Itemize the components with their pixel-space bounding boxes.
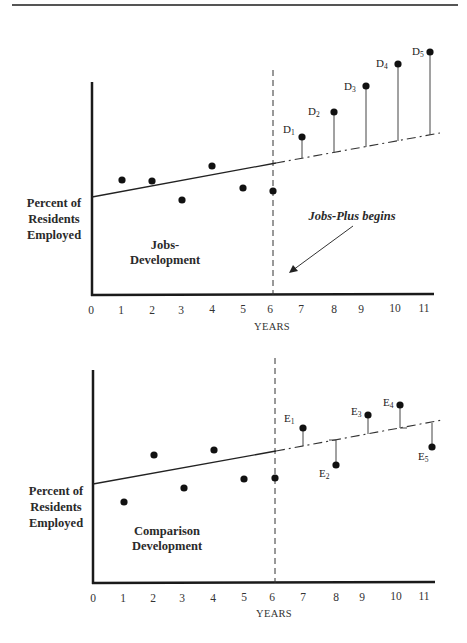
x-axis [92,582,435,583]
svg-text:D3: D3 [344,80,356,94]
svg-text:Jobs-: Jobs- [151,238,179,252]
svg-text:9: 9 [358,303,364,315]
svg-text:E4: E4 [383,396,394,410]
svg-text:E3: E3 [351,405,362,419]
svg-text:3: 3 [179,592,185,604]
y-axis-label: Percent of Residents Employed [27,196,82,242]
projected-trend-line [276,420,442,451]
svg-text:11: 11 [418,302,429,314]
svg-text:D2: D2 [308,105,320,119]
svg-text:8: 8 [333,591,339,603]
svg-text:E1: E1 [284,412,295,426]
svg-text:5: 5 [241,591,247,603]
x-axis [91,294,434,295]
baseline-trend-line [93,451,276,484]
svg-text:D4: D4 [376,57,388,71]
svg-text:7: 7 [300,591,306,603]
svg-text:Residents: Residents [28,212,80,226]
svg-text:Employed: Employed [27,228,81,242]
point-labels: E1 E2 E3 E4 E5 [284,396,429,481]
x-tick-labels: 0 1 2 3 4 5 6 7 8 9 10 11 [90,590,430,604]
x-tick-labels: 0 1 2 3 4 5 6 7 8 9 10 11 [88,302,430,316]
svg-text:E2: E2 [319,467,330,481]
svg-text:10: 10 [389,302,401,314]
svg-text:Percent of: Percent of [29,484,84,498]
svg-text:10: 10 [390,590,402,602]
svg-text:6: 6 [269,591,275,603]
pre-intervention-points [118,162,276,203]
svg-text:11: 11 [418,590,429,602]
svg-text:7: 7 [298,303,304,315]
svg-text:0: 0 [90,592,96,604]
svg-text:5: 5 [240,303,246,315]
svg-text:0: 0 [88,304,94,316]
svg-text:4: 4 [209,303,215,315]
post-intervention-points [299,401,435,468]
svg-text:3: 3 [178,304,184,316]
svg-text:4: 4 [210,592,216,604]
svg-text:YEARS: YEARS [254,321,290,332]
svg-text:2: 2 [149,304,155,316]
panel-label: Jobs- Development [130,238,201,267]
svg-text:6: 6 [267,303,273,315]
svg-text:1: 1 [118,304,124,316]
svg-text:2: 2 [150,592,156,604]
svg-text:Comparison: Comparison [134,524,200,538]
comparison-development-chart: Percent of Residents Employed E1 E2 E3 E… [0,334,467,643]
svg-text:8: 8 [331,303,337,315]
x-axis-title: YEARS [256,608,292,619]
point-labels: D1 D2 D3 D4 D5 [283,45,424,137]
svg-text:9: 9 [359,591,365,603]
svg-text:1: 1 [120,592,126,604]
svg-text:Development: Development [130,253,201,267]
y-axis-label: Percent of Residents Employed [29,484,84,530]
arrow-icon [289,226,353,273]
panel-label: Comparison Development [132,524,203,553]
deviation-stems [302,52,430,158]
svg-text:Percent of: Percent of [27,196,82,210]
svg-text:D5: D5 [412,45,424,59]
annotation-text: Jobs-Plus begins [307,209,395,223]
svg-text:Residents: Residents [30,500,82,514]
jobs-development-chart: Percent of Residents Employed D1 D2 D [0,0,467,320]
svg-text:E5: E5 [418,450,429,464]
svg-text:Employed: Employed [29,516,83,530]
svg-text:Development: Development [132,539,203,553]
x-axis-title-top: YEARS [0,320,467,334]
svg-text:D1: D1 [283,123,295,137]
